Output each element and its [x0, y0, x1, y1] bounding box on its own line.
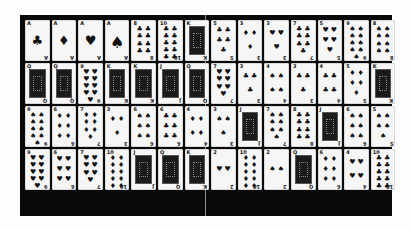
suit-icon: ♣	[250, 73, 258, 80]
playing-card[interactable]: QQ	[52, 63, 77, 104]
suit-icon: ♠	[219, 130, 227, 137]
playing-card[interactable]: 88♠♠♠♠♠♠♠♠	[371, 20, 396, 61]
playing-card[interactable]: 99♥♥♥♥♥♥♥♥♥	[25, 149, 50, 190]
suit-icon: ♠	[106, 33, 129, 52]
suit-icon: ♠	[357, 123, 365, 130]
card-rank-index-bottom: Q	[309, 184, 313, 189]
playing-card[interactable]: 77♥♥♥♥♥♥♥	[211, 63, 236, 104]
playing-card[interactable]: 22♥♥	[211, 149, 236, 190]
playing-card[interactable]: AA♦	[52, 20, 77, 61]
playing-card[interactable]: 66♠♠♠♠♠♠	[344, 106, 369, 147]
card-rank-index-bottom: A	[97, 55, 101, 60]
playing-card[interactable]: 77♣♣♣♣♣♣♣	[291, 20, 316, 61]
suit-icon: ♠	[215, 116, 223, 123]
playing-card[interactable]: QQ	[291, 149, 316, 190]
playing-card[interactable]: JJ	[158, 63, 183, 104]
suit-pips: ♣♣♣♣♣♣♣♣	[135, 26, 152, 55]
playing-card[interactable]: 77♠♠♠♠♠♠♠	[264, 106, 289, 147]
suit-pips: ♦♦♦	[109, 112, 126, 141]
playing-card[interactable]: 44♣♣♣♣	[318, 63, 343, 104]
playing-card[interactable]: 44♦♦♦♦	[185, 106, 210, 147]
playing-card[interactable]: 66♣♣♣♣♣♣	[158, 106, 183, 147]
suit-icon: ♥	[64, 166, 72, 173]
playing-card[interactable]: 33♣♣♣	[291, 63, 316, 104]
playing-card[interactable]: 1010♦♦♦♦♦♦♦♦♦♦	[105, 149, 130, 190]
suit-icon: ♣	[246, 87, 254, 94]
playing-card[interactable]: 77♥♥♥♥♥♥♥	[78, 149, 103, 190]
suit-pips: ♦♦♦♦♦♦♦	[82, 112, 99, 141]
card-rank-index-bottom: 4	[283, 98, 286, 103]
playing-card[interactable]: AA♣	[25, 20, 50, 61]
playing-card[interactable]: 66♥♥♥♥♥♥	[52, 149, 77, 190]
suit-icon: ♠	[357, 133, 365, 140]
playing-card[interactable]: JJ	[318, 106, 343, 147]
playing-card[interactable]: 22♠♠	[264, 149, 289, 190]
playing-card[interactable]: JJ	[131, 149, 156, 190]
playing-card[interactable]: KK	[131, 63, 156, 104]
playing-card[interactable]: 33♣♣♣	[238, 63, 263, 104]
playing-card[interactable]: 33♦♦♦	[105, 106, 130, 147]
playing-card[interactable]: 55♦♦♦♦♦	[344, 63, 369, 104]
card-rank-index-bottom: Q	[176, 184, 180, 189]
suit-icon: ♦	[348, 70, 356, 77]
playing-card[interactable]: 88♣♣♣♣♣♣♣♣	[131, 20, 156, 61]
suit-pips: ♣♣♣	[242, 69, 259, 98]
card-rank-index-bottom: 6	[150, 141, 153, 146]
card-rank-index-bottom: K	[203, 55, 207, 60]
suit-icon: ♠	[273, 134, 281, 141]
suit-icon: ♦	[322, 156, 330, 163]
playing-card[interactable]: KK	[185, 149, 210, 190]
suit-icon: ♣	[303, 73, 311, 80]
card-rank-index-bottom: J	[258, 141, 260, 146]
suit-pips: ♣♣♣♣♣♣	[162, 112, 179, 141]
playing-card[interactable]: 44♥♥♥♥	[344, 149, 369, 190]
playing-card[interactable]: 44♠♠♠♠	[264, 63, 289, 104]
playing-card[interactable]: KK	[105, 63, 130, 104]
playing-card[interactable]: QQ	[158, 149, 183, 190]
suit-pips: ♠♠♠♠♠♠	[135, 112, 152, 141]
playing-card[interactable]: 55♠♠♠♠♠	[371, 106, 396, 147]
playing-card[interactable]: 99♠♠♠♠♠♠♠♠♠	[25, 106, 50, 147]
suit-icon: ♣	[299, 87, 307, 94]
suit-icon: ♦	[352, 90, 360, 97]
playing-card[interactable]: JJ	[238, 106, 263, 147]
playing-card[interactable]: 1010♣♣♣♣♣♣♣♣♣♣	[158, 20, 183, 61]
playing-card[interactable]: 33♥♥♥	[264, 20, 289, 61]
playing-card[interactable]: 33♦♦♦	[238, 20, 263, 61]
suit-icon: ♦	[242, 183, 250, 190]
playing-card[interactable]: 99♥♥♥♥♥♥♥♥♥	[78, 63, 103, 104]
playing-card[interactable]: AA♠	[105, 20, 130, 61]
playing-card[interactable]: 55♣♣♣♣♣	[211, 20, 236, 61]
playing-card[interactable]: KK	[185, 20, 210, 61]
suit-pips: ♥♥♥♥♥	[322, 26, 339, 55]
suit-icon: ♦	[64, 123, 72, 130]
playing-card[interactable]: 77♦♦♦♦♦♦♦	[78, 106, 103, 147]
card-rank-index-bottom: 3	[230, 141, 233, 146]
suit-icon: ♣	[144, 48, 152, 55]
card-grid: AA♣AA♦AA♥AA♠88♣♣♣♣♣♣♣♣1010♣♣♣♣♣♣♣♣♣♣KK55…	[25, 20, 395, 190]
playing-card[interactable]: 1010♣♣♣♣♣♣♣♣♣♣	[371, 149, 396, 190]
suit-icon: ♥	[86, 177, 94, 184]
suit-icon: ♣	[242, 73, 250, 80]
playing-card[interactable]: 66♦♦♦♦♦♦	[318, 149, 343, 190]
suit-icon: ♣	[299, 48, 307, 55]
playing-card[interactable]: 99♠♠♠♠♠♠♠♠♠	[344, 20, 369, 61]
playing-card[interactable]: 1010♦♦♦♦♦♦♦♦♦♦	[238, 149, 263, 190]
playing-card[interactable]: QQ	[185, 63, 210, 104]
playing-card[interactable]: KK	[371, 63, 396, 104]
playing-card[interactable]: QQ	[25, 63, 50, 104]
suit-icon: ♣	[162, 54, 170, 61]
suit-icon: ♣	[330, 87, 338, 94]
playing-card[interactable]: 66♠♠♠♠♠♠	[131, 106, 156, 147]
suit-icon: ♦	[117, 183, 125, 190]
suit-icon: ♦	[357, 70, 365, 77]
playing-card[interactable]: 55♥♥♥♥♥	[318, 20, 343, 61]
playing-card[interactable]: 33♠♠♠	[211, 106, 236, 147]
playing-card[interactable]: 88♣♣♣♣♣♣♣♣	[291, 106, 316, 147]
card-rank-index-bottom: 6	[337, 184, 340, 189]
card-rank-index-bottom: 6	[71, 184, 74, 189]
playing-card[interactable]: 66♦♦♦♦♦♦	[52, 106, 77, 147]
suit-icon: ♥	[64, 176, 72, 183]
playing-card[interactable]: AA♥	[78, 20, 103, 61]
card-rank-index-bottom: 3	[283, 55, 286, 60]
